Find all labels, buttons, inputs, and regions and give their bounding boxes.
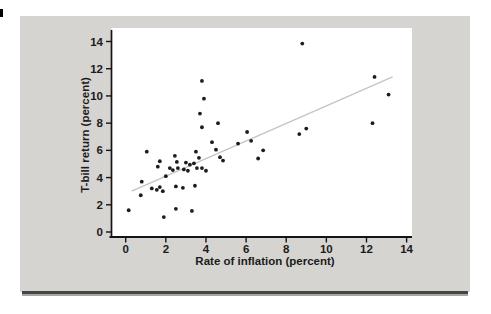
data-point [186, 169, 190, 173]
data-point [173, 154, 177, 158]
data-point [176, 166, 180, 170]
data-point [155, 188, 159, 192]
data-point [164, 174, 168, 178]
data-point [162, 215, 166, 219]
data-point [387, 93, 391, 97]
data-point [192, 161, 196, 165]
data-point [210, 140, 214, 144]
data-point [158, 159, 162, 163]
data-point [245, 130, 249, 134]
x-axis-title: Rate of inflation (percent) [160, 255, 370, 267]
data-point [200, 125, 204, 129]
data-point [300, 42, 304, 46]
y-tick-label: 2 [97, 199, 103, 211]
bottom-rule-light [22, 294, 468, 296]
data-point [140, 180, 144, 184]
data-point [200, 166, 204, 170]
x-tick-label: 4 [203, 243, 210, 255]
data-point [373, 75, 377, 79]
x-tick-label: 14 [400, 243, 413, 255]
data-point [145, 150, 149, 154]
data-point [236, 142, 240, 146]
plot-area [112, 28, 413, 237]
data-point [174, 207, 178, 211]
data-point [195, 166, 199, 170]
data-point [190, 209, 194, 213]
data-point [127, 208, 131, 212]
data-point [249, 139, 253, 143]
y-tick-label: 12 [90, 63, 103, 75]
data-point [256, 157, 260, 161]
data-point [150, 187, 154, 191]
x-tick-label: 12 [360, 243, 373, 255]
y-tick-label: 4 [97, 172, 104, 184]
data-point [171, 168, 175, 172]
data-point [193, 184, 197, 188]
data-point [158, 185, 162, 189]
data-point [197, 156, 201, 160]
data-point [221, 159, 225, 163]
data-point [297, 132, 301, 136]
data-point [161, 189, 165, 193]
data-point [371, 121, 375, 125]
y-tick-label: 6 [97, 144, 103, 156]
x-tick-label: 10 [320, 243, 333, 255]
data-point [188, 163, 192, 167]
data-point [214, 148, 218, 152]
data-point [181, 186, 185, 190]
data-point [198, 112, 202, 116]
y-tick-label: 8 [97, 117, 104, 129]
data-point [218, 155, 222, 159]
data-point [156, 165, 160, 169]
y-tick-label: 0 [97, 226, 103, 238]
data-point [216, 121, 220, 125]
data-point [200, 79, 204, 83]
data-point [194, 150, 198, 154]
data-point [202, 97, 206, 101]
data-point [304, 127, 308, 131]
data-point [184, 161, 188, 165]
y-axis-title: T-bill return (percent) [79, 30, 91, 240]
x-tick-label: 0 [122, 243, 128, 255]
data-point [174, 185, 178, 189]
y-tick-label: 10 [90, 90, 103, 102]
x-tick-label: 6 [243, 243, 249, 255]
x-tick-label: 8 [283, 243, 290, 255]
y-tick-label: 14 [90, 36, 103, 48]
data-point [204, 169, 208, 173]
data-point [182, 168, 186, 172]
x-tick-label: 2 [163, 243, 169, 255]
data-point [139, 193, 143, 197]
data-point [261, 148, 265, 152]
data-point [175, 160, 179, 164]
